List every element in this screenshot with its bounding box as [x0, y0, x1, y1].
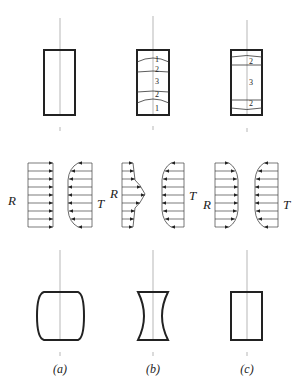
zone-label: 2	[155, 65, 159, 74]
caption-a: (a)	[53, 362, 67, 376]
specimen-c-final: (c)	[231, 250, 262, 376]
zone-label: 2	[249, 99, 253, 108]
zone-label: 3	[249, 78, 253, 87]
zone-label: 3	[155, 77, 159, 86]
zone-label: 2	[249, 57, 253, 66]
specimen-b-final: (b)	[138, 250, 168, 376]
label-T: T	[283, 197, 291, 212]
zone-label: 1	[155, 104, 159, 113]
specimen-rect	[44, 50, 75, 115]
label-T: T	[97, 196, 105, 211]
label-R: R	[7, 193, 16, 208]
profile-b-R: R	[109, 163, 145, 227]
label-T: T	[189, 188, 197, 203]
caption-c: (c)	[240, 362, 253, 376]
zone-label: 1	[155, 55, 159, 64]
caption-b: (b)	[146, 362, 160, 376]
rect-shape	[231, 292, 262, 340]
label-R: R	[202, 197, 211, 212]
zone-boundary	[231, 108, 262, 110]
zone-label: 2	[155, 90, 159, 99]
profile-c-T: T	[255, 163, 291, 227]
profile-a-T: T	[68, 163, 105, 227]
specimen-b-initial: 1 2 3 2 1	[137, 16, 169, 130]
specimen-a-initial	[44, 18, 75, 131]
deformation-diagram: 1 2 3 2 1 2 3 2 R	[0, 0, 299, 379]
profile-b-T: T	[162, 163, 197, 227]
zone-boundary	[231, 56, 262, 58]
profile-c-R: R	[202, 163, 238, 227]
specimen-rect	[231, 50, 262, 115]
barrel-shape	[37, 292, 84, 340]
label-R: R	[109, 186, 118, 201]
specimen-c-initial: 2 3 2	[231, 20, 262, 132]
specimen-a-final: (a)	[37, 250, 84, 376]
profile-a-R: R	[7, 163, 53, 227]
